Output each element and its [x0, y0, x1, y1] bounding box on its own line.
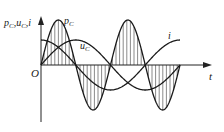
capacitor-power-waveform-diagram: pC,uC,i O t pC uC i [0, 0, 224, 132]
t-axis-label: t [209, 70, 213, 82]
origin-label: O [31, 67, 39, 79]
y-axis-arrow-icon [38, 16, 44, 25]
y-axis-label: pC,uC,i [3, 17, 31, 30]
t-axis-arrow-icon [203, 62, 212, 68]
i-curve-label: i [168, 30, 171, 41]
